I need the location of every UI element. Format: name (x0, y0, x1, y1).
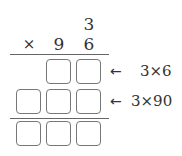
carry-digit: 3 (76, 14, 102, 34)
multiplier-ones-digit: 6 (76, 34, 102, 54)
answer-box-step1-ones[interactable] (76, 59, 101, 84)
step2-note: 3×90 (131, 92, 172, 110)
times-sign: × (16, 34, 42, 54)
result-box-ones[interactable] (76, 121, 101, 146)
answer-box-step2-hundreds[interactable] (16, 89, 41, 114)
left-arrow-icon: ← (110, 63, 122, 79)
step1-note: 3×6 (140, 62, 172, 80)
answer-box-step1-tens[interactable] (46, 59, 71, 84)
result-box-hundreds[interactable] (16, 121, 41, 146)
answer-box-step2-tens[interactable] (46, 89, 71, 114)
multiplier-tens-digit: 9 (46, 34, 72, 54)
top-rule (10, 54, 109, 55)
sum-rule (10, 118, 109, 119)
left-arrow-icon: ← (110, 93, 122, 109)
result-box-tens[interactable] (46, 121, 71, 146)
answer-box-step2-ones[interactable] (76, 89, 101, 114)
